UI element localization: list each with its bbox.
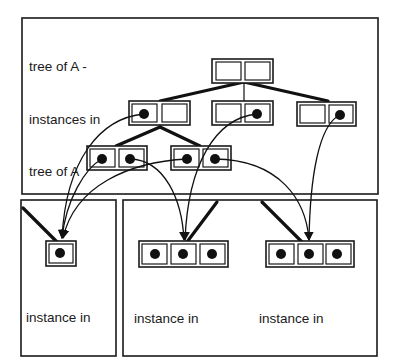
- node-c-t2: [139, 241, 228, 267]
- instance-dot: [178, 249, 188, 259]
- instance-dot: [55, 248, 65, 258]
- label-line: instance in: [134, 310, 219, 328]
- node-a-left: [129, 101, 190, 125]
- node-b-instance: [46, 241, 76, 266]
- arrow-a-right-to-c-t3: [309, 115, 340, 240]
- node-a-mid: [212, 101, 273, 125]
- node-a-root: [212, 59, 273, 83]
- label-tree-c-t3: instance in tree of C executed at t3: [259, 275, 344, 359]
- edge-left-lr: [160, 127, 200, 146]
- label-line: tree of A: [29, 163, 100, 181]
- edge-left-ll: [116, 127, 160, 146]
- instance-dot: [276, 249, 286, 259]
- label-line: instance in: [26, 309, 111, 327]
- label-tree-c-t2: instance in tree of C executed at t2: [134, 275, 219, 359]
- arrow-a-mid-to-c-t2: [185, 114, 257, 240]
- node-c-t3: [266, 241, 354, 267]
- edge-root-left: [160, 82, 244, 101]
- instance-dot: [304, 249, 314, 259]
- label-tree-b: instance in tree of B executed at t1: [26, 274, 111, 359]
- label-line: instance in: [259, 310, 344, 328]
- node-a-right: [297, 102, 356, 126]
- node-a-lr: [171, 146, 231, 170]
- label-tree-a: tree of A - instances in tree of A: [29, 23, 100, 198]
- edge-root-right: [244, 82, 328, 101]
- label-line: instances in: [29, 111, 100, 129]
- edge-into-b: [23, 208, 58, 243]
- instance-dot: [207, 249, 217, 259]
- edge-into-c-t2: [187, 202, 217, 242]
- edge-into-c-t3: [262, 202, 302, 242]
- instance-dot: [150, 249, 160, 259]
- label-line: tree of A -: [29, 58, 100, 76]
- instance-dot: [332, 249, 342, 259]
